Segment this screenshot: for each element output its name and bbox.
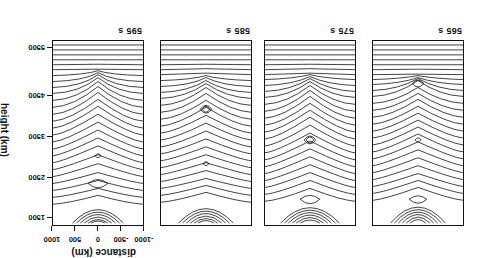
x-tick [143,226,144,231]
y-axis-title: height (km) [0,103,10,157]
contour-plot-area [53,41,143,225]
y-tick-labels: 1500 2500 3500 4500 5500 [15,40,45,226]
y-tick-label: 4500 [28,91,45,100]
panel-time-label: 585 s [226,26,250,36]
contour-panel [372,40,464,226]
x-axis-ticks [52,224,144,234]
contour-plot-area [265,41,355,225]
y-tick [47,136,52,137]
y-tick-label: 2500 [28,173,45,182]
panel-time-label: 565 s [438,26,462,36]
x-tick [51,226,52,231]
contour-panel [160,40,252,226]
x-tick-labels: -1000 -500 0 500 1000 [52,234,144,244]
panel-time-label: 595 s [118,26,142,36]
x-tick-label: 0 [96,235,100,244]
y-tick-label: 5500 [28,43,45,52]
y-tick [47,47,52,48]
y-tick [47,177,52,178]
contour-plot-area [161,41,251,225]
x-tick [97,226,98,231]
figure-rotation-wrapper: 565 s [0,0,482,258]
contour-panel [264,40,356,226]
contour-panel [52,40,144,226]
y-tick-label: 1500 [28,213,45,222]
contour-plot-area [373,41,463,225]
y-tick-label: 3500 [28,132,45,141]
y-axis-ticks [46,40,52,226]
y-tick [47,217,52,218]
x-tick [74,226,75,231]
x-tick [120,226,121,231]
x-tick-label: -500 [113,235,128,244]
x-tick-label: 1000 [44,235,61,244]
contour-figure: 565 s [0,0,482,258]
x-tick-label: 500 [69,235,82,244]
panel-time-label: 575 s [330,26,354,36]
x-axis-title: distance (km) [72,247,136,258]
y-tick [47,95,52,96]
x-tick-label: -1000 [134,235,153,244]
